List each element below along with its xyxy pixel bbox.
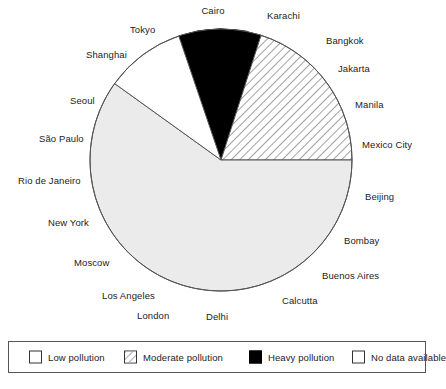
city-label-rio-de-janeiro: Rio de Janeiro (18, 175, 81, 186)
pie-chart-svg (0, 0, 437, 335)
city-label-los-angeles: Los Angeles (102, 290, 155, 301)
city-label-beijing: Beijing (365, 191, 394, 202)
chart-legend: Low pollutionModerate pollutionHeavy pol… (8, 341, 426, 373)
legend-item-moderate-pollution[interactable]: Moderate pollution (124, 351, 223, 364)
legend-swatch-low-pollution-icon (29, 351, 42, 364)
legend-items-row: Low pollutionModerate pollutionHeavy pol… (9, 342, 425, 372)
city-label-seoul: Seoul (70, 95, 95, 106)
legend-item-heavy-pollution[interactable]: Heavy pollution (249, 351, 334, 364)
pie-slice-group (90, 29, 352, 291)
legend-label-text: Moderate pollution (143, 352, 223, 363)
legend-label-text: No data available (371, 352, 446, 363)
city-label-cairo: Cairo (201, 5, 224, 16)
city-label-shanghai: Shanghai (86, 49, 127, 60)
city-label-tokyo: Tokyo (130, 24, 155, 35)
pie-chart-area: CairoKarachiBangkokJakartaManilaMexico C… (0, 0, 437, 335)
city-label-moscow: Moscow (74, 257, 109, 268)
legend-swatch-heavy-pollution-icon (249, 351, 262, 364)
legend-swatch-no-data-available-icon (352, 351, 365, 364)
city-label-new-york: New York (48, 217, 89, 228)
city-label-buenos-aires: Buenos Aires (322, 270, 379, 281)
legend-label-text: Heavy pollution (268, 352, 334, 363)
city-label-karachi: Karachi (267, 10, 300, 21)
city-label-delhi: Delhi (206, 311, 228, 322)
city-label-bombay: Bombay (344, 235, 379, 246)
legend-swatch-moderate-pollution-icon (124, 351, 137, 364)
city-label-manila: Manila (355, 99, 384, 110)
legend-label-text: Low pollution (48, 352, 105, 363)
legend-item-no-data-available[interactable]: No data available (352, 351, 446, 364)
city-label-london: London (137, 310, 169, 321)
legend-item-low-pollution[interactable]: Low pollution (29, 351, 105, 364)
city-label-jakarta: Jakarta (338, 63, 370, 74)
city-label-calcutta: Calcutta (282, 295, 318, 306)
city-label-são-paulo: São Paulo (39, 133, 84, 144)
city-label-mexico-city: Mexico City (362, 139, 412, 150)
city-label-bangkok: Bangkok (326, 35, 364, 46)
